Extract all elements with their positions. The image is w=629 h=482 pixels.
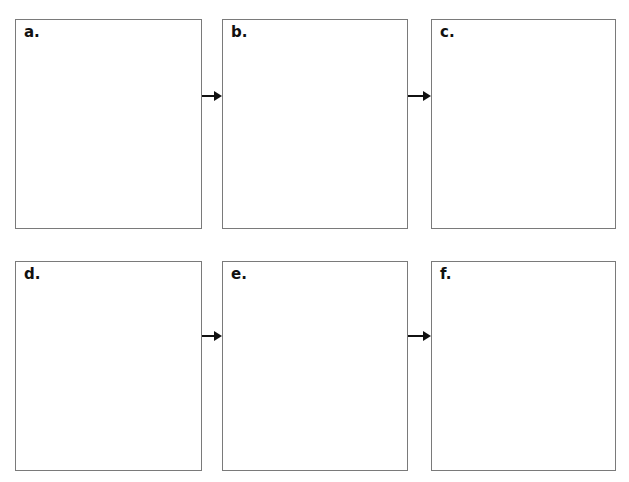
panel-c: c. [431, 19, 616, 229]
arrow-e-to-f [408, 331, 431, 341]
panel-e: e. [222, 261, 408, 471]
arrow-head-icon [214, 331, 222, 341]
arrow-a-to-b [202, 91, 222, 101]
panel-label-b: b. [231, 25, 247, 40]
panel-label-d: d. [24, 267, 40, 282]
panel-f: f. [431, 261, 616, 471]
panel-a: a. [15, 19, 202, 229]
arrow-head-icon [214, 91, 222, 101]
arrow-head-icon [423, 331, 431, 341]
panel-label-a: a. [24, 25, 40, 40]
arrow-d-to-e [202, 331, 222, 341]
arrow-b-to-c [408, 91, 431, 101]
panel-b: b. [222, 19, 408, 229]
arrow-head-icon [423, 91, 431, 101]
panel-label-f: f. [440, 267, 451, 282]
panel-label-e: e. [231, 267, 247, 282]
panel-d: d. [15, 261, 202, 471]
arrow-shaft [408, 335, 424, 337]
panel-label-c: c. [440, 25, 455, 40]
arrow-shaft [408, 95, 424, 97]
